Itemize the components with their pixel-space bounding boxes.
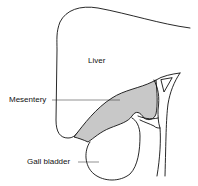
- label-liver: Liver: [88, 56, 106, 65]
- duct-inner-fork: [161, 78, 172, 92]
- label-mesentery: Mesentery: [9, 95, 46, 104]
- label-gall-bladder: Gall bladder: [27, 157, 70, 166]
- anatomy-diagram: Liver Mesentery Gall bladder: [0, 0, 198, 186]
- mesentery-region: [74, 80, 157, 142]
- cystic-duct-lower: [140, 120, 160, 128]
- duct-right-wall: [165, 73, 180, 176]
